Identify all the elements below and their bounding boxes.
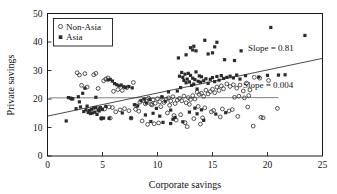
data-point-non-asia: [276, 107, 280, 111]
data-point-non-asia: [235, 86, 239, 90]
data-point-non-asia: [251, 124, 255, 128]
data-point-asia: [152, 112, 155, 115]
scatter-plot-figure: 0510152025 01020304050 Corporate savings…: [0, 0, 337, 194]
data-point-asia: [101, 108, 104, 111]
data-point-asia: [164, 100, 167, 103]
x-tick-label: 20: [263, 160, 273, 170]
data-point-asia: [127, 85, 130, 88]
data-point-asia: [78, 100, 81, 103]
data-point-non-asia: [80, 83, 84, 87]
x-tick-label: 5: [100, 160, 105, 170]
y-axis-title: Private savings: [5, 54, 16, 115]
data-point-asia: [199, 81, 202, 84]
data-point-non-asia: [116, 88, 120, 92]
x-tick-label: 10: [153, 160, 163, 170]
data-point-non-asia: [180, 99, 184, 103]
data-point-non-asia: [218, 115, 222, 119]
y-tick-label: 20: [33, 94, 43, 104]
data-point-asia: [188, 111, 191, 114]
data-point-asia: [139, 99, 142, 102]
data-point-asia: [193, 107, 196, 110]
data-point-asia: [200, 75, 203, 78]
data-point-asia: [194, 49, 197, 52]
data-point-non-asia: [123, 107, 127, 111]
annotation-slope-asia: Slope = 0.81: [248, 43, 294, 53]
data-point-non-asia: [195, 90, 199, 94]
y-axis-tick-labels: 01020304050: [33, 9, 43, 162]
data-point-asia: [233, 59, 236, 62]
data-point-asia: [158, 115, 161, 118]
data-point-non-asia: [157, 121, 161, 125]
data-point-asia: [133, 103, 136, 106]
x-axis-title: Corporate savings: [149, 179, 222, 190]
data-point-non-asia: [169, 99, 173, 103]
data-point-asia: [186, 77, 189, 80]
data-point-asia: [174, 116, 177, 119]
data-point-asia: [98, 109, 101, 112]
legend-label-asia: Asia: [66, 32, 83, 42]
data-point-asia: [211, 76, 214, 79]
data-point-non-asia: [150, 103, 154, 107]
data-point-asia: [178, 75, 181, 78]
data-point-non-asia: [246, 105, 250, 109]
data-point-non-asia: [252, 75, 256, 79]
data-point-asia: [185, 53, 188, 56]
data-point-asia: [277, 73, 280, 76]
data-point-non-asia: [83, 72, 87, 76]
data-point-asia: [79, 105, 82, 108]
data-point-non-asia: [179, 113, 183, 117]
data-point-non-asia: [221, 107, 225, 111]
legend-label-non-asia: Non-Asia: [66, 22, 101, 32]
data-point-asia: [185, 81, 188, 84]
data-point-asia: [144, 113, 147, 116]
x-tick-label: 15: [208, 160, 218, 170]
data-point-asia: [191, 48, 194, 51]
annotation-slope-non-asia: Slope = 0.004: [243, 80, 294, 90]
data-point-non-asia: [196, 105, 200, 109]
data-point-asia: [148, 98, 151, 101]
data-point-asia: [124, 86, 127, 89]
legend: Non-Asia Asia: [54, 19, 113, 47]
data-point-non-asia: [96, 87, 100, 91]
data-point-non-asia: [78, 73, 82, 77]
data-point-asia: [204, 77, 207, 80]
data-point-non-asia: [114, 110, 118, 114]
data-point-asia: [207, 52, 210, 55]
data-point-asia: [176, 89, 179, 92]
data-point-asia: [193, 78, 196, 81]
data-point-non-asia: [204, 88, 208, 92]
data-point-asia: [200, 108, 203, 111]
x-axis-tick-labels: 0510152025: [45, 160, 327, 170]
legend-marker-asia-icon: [59, 35, 63, 39]
data-point-non-asia: [131, 81, 135, 85]
data-point-asia: [220, 74, 223, 77]
data-point-asia: [136, 104, 139, 107]
y-tick-label: 30: [33, 66, 43, 76]
data-point-non-asia: [127, 109, 131, 113]
data-point-non-asia: [206, 92, 210, 96]
data-point-asia: [177, 56, 180, 59]
x-axis-ticks: [48, 152, 323, 156]
data-point-asia: [94, 96, 97, 99]
data-point-asia: [83, 87, 86, 90]
y-tick-label: 10: [33, 123, 43, 133]
data-point-non-asia: [120, 89, 124, 93]
data-point-non-asia: [232, 83, 236, 87]
y-tick-label: 40: [33, 37, 43, 47]
data-point-asia: [169, 109, 172, 112]
data-point-asia: [215, 75, 218, 78]
x-tick-label: 25: [318, 160, 328, 170]
data-point-asia: [211, 51, 214, 54]
data-point-asia: [189, 74, 192, 77]
data-point-asia: [81, 92, 84, 95]
data-point-non-asia: [146, 122, 150, 126]
y-axis-ticks: [48, 14, 52, 157]
data-point-asia: [223, 58, 226, 61]
data-point-asia: [130, 116, 133, 119]
data-point-asia: [95, 113, 98, 116]
y-tick-label: 50: [33, 9, 43, 19]
data-point-non-asia: [185, 125, 189, 129]
data-point-asia: [240, 49, 243, 52]
data-point-non-asia: [222, 87, 226, 91]
data-point-asia: [65, 119, 68, 122]
